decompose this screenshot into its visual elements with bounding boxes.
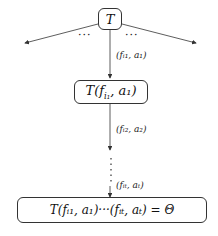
ellipsis-left: ··· [78,29,92,42]
edge-label-2: (fᵢ₂, a₂) [116,124,146,134]
root-node: T [98,8,122,30]
final-node-label: T(fᵢ₁, a₁)···(fᵢₜ, aₜ) = Θ [50,203,175,217]
node-1-label: T(fi₁, a₁) [86,83,137,101]
root-node-label: T [106,12,115,27]
edge-label-1: (fᵢ₁, a₁) [116,50,146,60]
node-1: T(fi₁, a₁) [74,80,148,104]
edge-label-t: (fᵢₜ, aₜ) [116,180,144,190]
ellipsis-right: ··· [125,29,139,42]
final-node: T(fᵢ₁, a₁)···(fᵢₜ, aₜ) = Θ [17,197,207,223]
